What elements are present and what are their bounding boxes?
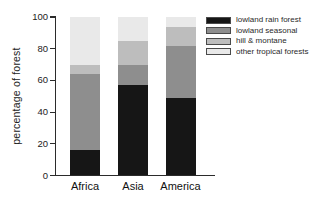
- bar-segment-lowland-seasonal: [70, 74, 100, 150]
- bar-segment-lowland-seasonal: [166, 46, 196, 98]
- x-category-label: America: [146, 180, 216, 192]
- legend-swatch-icon: [206, 48, 231, 55]
- y-tick: [50, 16, 55, 17]
- legend-item: hill & montane: [206, 38, 308, 44]
- y-tick-label: 100: [24, 12, 48, 22]
- y-tick: [50, 80, 55, 81]
- stacked-bar-chart: percentage of forest 020406080100AfricaA…: [0, 0, 321, 201]
- legend-item: lowland seasonal: [206, 28, 308, 34]
- bar-segment-hill-montane: [166, 27, 196, 46]
- bar-segment-other-tropical-forests: [166, 17, 196, 27]
- bar-segment-other-tropical-forests: [118, 17, 148, 41]
- legend-swatch-icon: [206, 38, 231, 45]
- y-tick-label: 60: [24, 75, 48, 85]
- y-tick: [50, 48, 55, 49]
- bar-segment-other-tropical-forests: [70, 17, 100, 65]
- y-axis-line: [55, 16, 56, 176]
- y-axis-title: percentage of forest: [10, 47, 22, 144]
- y-tick-label: 20: [24, 139, 48, 149]
- bar-segment-hill-montane: [70, 65, 100, 75]
- y-tick-label: 0: [24, 171, 48, 181]
- y-tick: [50, 112, 55, 113]
- legend-item-label: other tropical forests: [236, 48, 308, 56]
- y-tick: [50, 143, 55, 144]
- y-tick-label: 40: [24, 107, 48, 117]
- y-tick-label: 80: [24, 44, 48, 54]
- y-tick: [50, 175, 55, 176]
- legend-item-label: hill & montane: [236, 37, 287, 45]
- legend-swatch-icon: [206, 17, 231, 24]
- bar-segment-lowland-rain-forest: [70, 150, 100, 175]
- legend-item-label: lowland rain forest: [236, 16, 301, 24]
- legend-item: other tropical forests: [206, 49, 308, 55]
- legend-swatch-icon: [206, 27, 231, 34]
- bar-segment-hill-montane: [118, 41, 148, 65]
- bar-segment-lowland-seasonal: [118, 65, 148, 86]
- bar-segment-lowland-rain-forest: [118, 85, 148, 175]
- legend-item: lowland rain forest: [206, 17, 308, 23]
- legend: lowland rain forestlowland seasonalhill …: [206, 17, 308, 59]
- bar-segment-lowland-rain-forest: [166, 98, 196, 176]
- legend-item-label: lowland seasonal: [236, 27, 297, 35]
